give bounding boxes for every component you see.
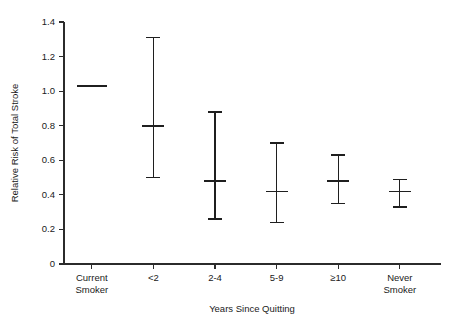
y-tick-label-3: 0.6: [42, 154, 55, 165]
y-axis-title: Relative Risk of Total Stroke: [9, 84, 20, 203]
y-tick-label-0: 0: [50, 258, 55, 269]
data-point-2: [204, 112, 226, 219]
data-point-4: [327, 155, 349, 203]
x-axis-ticks: [92, 264, 400, 269]
chart-figure: 00.20.40.60.81.01.21.4 CurrentSmoker<22-…: [0, 0, 449, 324]
x-tick-label-3: 5-9: [270, 272, 284, 283]
y-axis-ticks: [59, 22, 64, 264]
y-tick-label-2: 0.4: [42, 189, 55, 200]
y-tick-label-7: 1.4: [42, 16, 55, 27]
y-tick-label-4: 0.8: [42, 120, 55, 131]
x-tick-label-0: CurrentSmoker: [75, 272, 108, 295]
data-marks-group: [77, 38, 411, 223]
x-axis-title: Years Since Quitting: [209, 303, 295, 314]
data-point-5: [389, 179, 411, 207]
x-axis-tick-labels: CurrentSmoker<22-45-9≥10NeverSmoker: [75, 272, 416, 295]
x-tick-label-4: ≥10: [330, 272, 346, 283]
y-tick-label-5: 1.0: [42, 85, 55, 96]
x-tick-label-2: 2-4: [208, 272, 222, 283]
x-tick-label-5: NeverSmoker: [383, 272, 416, 295]
y-axis-tick-labels: 00.20.40.60.81.01.21.4: [42, 16, 55, 269]
y-tick-label-6: 1.2: [42, 51, 55, 62]
error-bar-plot: 00.20.40.60.81.01.21.4 CurrentSmoker<22-…: [0, 0, 449, 324]
x-tick-label-1: <2: [148, 272, 159, 283]
data-point-1: [142, 38, 164, 178]
data-point-3: [266, 143, 288, 223]
y-tick-label-1: 0.2: [42, 223, 55, 234]
